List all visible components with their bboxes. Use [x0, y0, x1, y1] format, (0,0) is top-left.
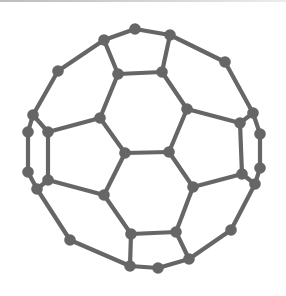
atom-H: [27, 109, 39, 121]
atom-AF: [183, 253, 195, 265]
bond-C-G: [170, 35, 225, 62]
bond-W-AC: [231, 184, 255, 230]
atom-AA: [170, 226, 182, 238]
bond-AB-AD: [70, 240, 130, 266]
atom-V: [236, 168, 248, 180]
fullerene-diagram: [0, 0, 286, 296]
bond-X-Z: [104, 195, 131, 234]
atom-AC: [225, 224, 237, 236]
atom-F: [52, 65, 64, 77]
bond-T-AB: [37, 189, 70, 240]
atom-T: [31, 183, 43, 195]
atom-A: [129, 23, 141, 35]
atom-Z: [125, 228, 137, 240]
bond-D-E: [118, 72, 162, 74]
atom-group: [22, 23, 266, 274]
bond-Y-AA: [176, 187, 193, 232]
bond-K-P: [100, 118, 125, 153]
bond-P-Q: [125, 152, 169, 153]
bond-F-H: [33, 71, 58, 115]
bond-L-Q: [169, 109, 187, 152]
atom-S: [42, 174, 54, 186]
atom-W: [249, 178, 261, 190]
bond-P-X: [104, 153, 125, 195]
atom-O: [254, 128, 266, 140]
atom-D: [112, 68, 124, 80]
atom-I: [22, 126, 34, 138]
atom-R: [22, 166, 34, 178]
atom-J: [42, 126, 54, 138]
atom-Y: [187, 181, 199, 193]
bond-E-L: [162, 72, 187, 109]
bond-D-K: [100, 74, 118, 118]
atom-Q: [163, 146, 175, 158]
bond-V-Y: [193, 174, 242, 187]
atom-L: [181, 103, 193, 115]
atom-X: [98, 189, 110, 201]
bond-L-N: [187, 109, 240, 123]
atom-AD: [124, 260, 136, 272]
atom-K: [94, 112, 106, 124]
bond-N-V: [240, 123, 242, 174]
atom-AE: [152, 262, 164, 274]
bond-AC-AF: [189, 230, 231, 259]
atom-M: [247, 107, 259, 119]
bond-S-X: [48, 180, 104, 195]
bond-J-K: [48, 118, 100, 132]
bond-B-F: [58, 40, 104, 71]
atom-B: [98, 34, 110, 46]
atom-U: [254, 162, 266, 174]
bond-Z-AA: [131, 232, 176, 234]
atom-E: [156, 66, 168, 78]
atom-AB: [64, 234, 76, 246]
atom-N: [234, 117, 246, 129]
bond-G-M: [225, 62, 253, 113]
atom-C: [164, 29, 176, 41]
atom-G: [219, 56, 231, 68]
bond-Q-Y: [169, 152, 193, 187]
atom-P: [119, 147, 131, 159]
